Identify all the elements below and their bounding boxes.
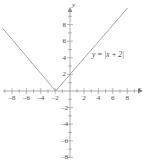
x-tick-label: 2 (82, 95, 86, 102)
y-tick-label: 4 (63, 54, 67, 61)
plot-canvas (0, 0, 146, 162)
y-tick-label: –8 (61, 154, 68, 161)
y-tick-label: –6 (61, 137, 68, 144)
y-tick-label: 8 (63, 21, 67, 28)
x-tick-label: –2 (52, 95, 59, 102)
x-tick-label: –4 (37, 95, 44, 102)
x-tick-label: –8 (9, 95, 16, 102)
y-tick-label: –4 (61, 121, 68, 128)
x-axis-label: x (138, 86, 141, 93)
y-tick-label: 6 (63, 38, 67, 45)
x-tick-label: 8 (125, 95, 129, 102)
x-tick-label: –6 (23, 95, 30, 102)
x-tick-label: 4 (97, 95, 101, 102)
x-tick-label: 6 (111, 95, 115, 102)
equation-annotation: y = |x + 2| (92, 51, 124, 59)
y-axis-label: y (72, 2, 75, 9)
y-tick-label: 2 (63, 71, 67, 78)
graph-figure: –8 –6 –4 –2 2 4 6 8 8 6 4 2 –2 –4 –6 –8 … (0, 0, 146, 162)
y-tick-label: –2 (61, 104, 68, 111)
